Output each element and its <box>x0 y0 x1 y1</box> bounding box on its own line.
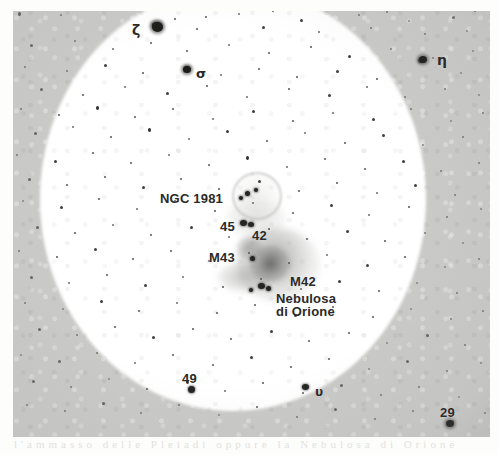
label-zeta-orionis: ζ <box>132 22 140 38</box>
star <box>480 362 482 364</box>
label-m42-subtitle-block: Nebulosa di Orione <box>276 292 336 318</box>
label-ngc-1981: NGC 1981 <box>160 191 223 206</box>
star <box>408 20 410 22</box>
star <box>410 108 412 110</box>
star <box>102 402 105 405</box>
star <box>16 154 18 156</box>
label-star-29: 29 <box>440 405 455 420</box>
star <box>478 258 480 260</box>
star <box>40 88 43 91</box>
star <box>418 58 424 63</box>
star <box>418 386 420 388</box>
star <box>444 266 446 268</box>
star <box>66 70 68 72</box>
star <box>460 72 462 74</box>
overexposed-bright-field <box>40 11 426 411</box>
star <box>462 136 464 138</box>
star <box>386 11 388 13</box>
star <box>406 360 409 363</box>
star <box>62 308 64 310</box>
star <box>478 94 480 96</box>
label-star-42: 42 <box>252 228 267 243</box>
star <box>140 412 142 414</box>
star <box>24 66 26 68</box>
star <box>368 368 370 370</box>
star <box>444 88 446 90</box>
star <box>38 328 41 331</box>
star <box>458 396 460 398</box>
label-m42-block: M42 <box>290 275 316 288</box>
label-upsilon-orionis: υ <box>315 385 323 399</box>
star <box>462 242 464 244</box>
star <box>30 44 33 47</box>
star <box>64 410 66 412</box>
page-bleedthrough-text: l'ammasso delle Pleiadi oppure la Nebulo… <box>14 438 484 454</box>
star <box>404 96 406 98</box>
star <box>450 318 452 320</box>
star <box>18 12 21 16</box>
star <box>412 410 414 412</box>
star-29-orionis <box>446 420 454 427</box>
star <box>452 16 455 19</box>
star <box>416 282 418 284</box>
star <box>20 108 22 110</box>
star <box>484 412 486 414</box>
star <box>456 292 458 294</box>
star <box>30 276 33 279</box>
star <box>76 334 78 336</box>
star <box>28 178 31 181</box>
star <box>70 386 72 388</box>
star <box>32 380 35 383</box>
star <box>482 112 484 114</box>
star <box>370 27 372 29</box>
label-sigma-orionis: σ <box>196 66 206 81</box>
star <box>432 57 434 59</box>
scanned-page-sheet: ζ σ η NGC 1981 45 42 M43 M42 Nebulosa di… <box>0 0 499 455</box>
star <box>478 162 480 164</box>
star <box>454 194 456 196</box>
label-m43: M43 <box>209 250 235 265</box>
star <box>446 370 448 372</box>
star <box>20 354 22 356</box>
star <box>358 14 360 16</box>
star <box>340 384 343 387</box>
label-star-49: 49 <box>182 371 197 386</box>
star <box>96 352 98 354</box>
star <box>22 200 24 202</box>
star <box>34 132 37 135</box>
star <box>464 344 466 346</box>
star <box>446 216 448 218</box>
star <box>178 404 180 406</box>
star <box>58 360 61 363</box>
star <box>36 226 39 229</box>
star <box>296 416 298 418</box>
star <box>18 250 20 252</box>
label-star-45: 45 <box>220 219 235 234</box>
star <box>390 48 392 50</box>
star <box>426 334 429 337</box>
star <box>474 11 476 12</box>
star <box>450 120 452 122</box>
star <box>74 40 76 42</box>
label-m42-subtitle-line2: di Orione <box>276 305 336 318</box>
star <box>410 308 412 310</box>
star <box>466 30 468 32</box>
star <box>334 408 337 411</box>
star <box>60 14 62 16</box>
star <box>424 33 426 35</box>
star <box>26 404 28 406</box>
star <box>440 170 442 172</box>
label-eta-orionis: η <box>437 52 447 68</box>
star <box>480 208 482 210</box>
star <box>422 144 424 146</box>
star <box>424 232 426 234</box>
star <box>108 378 110 380</box>
star <box>380 394 382 396</box>
star <box>472 50 474 52</box>
star <box>482 310 484 312</box>
star <box>374 418 376 420</box>
star-eta-orionis <box>419 56 427 63</box>
star <box>24 302 26 304</box>
star <box>386 342 388 344</box>
star <box>452 420 454 422</box>
